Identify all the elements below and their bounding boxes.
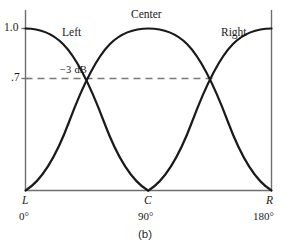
right-channel-curve [149,29,272,191]
left-channel-curve [26,29,149,191]
minus-3db-label: −3 dB [60,65,87,76]
curve-label-right: Right [221,27,247,39]
figure-caption: (b) [138,229,152,241]
x-tick-label-C: C [144,195,152,207]
x-tick-degrees-180: 180° [253,211,274,222]
y-tick-label-1.0: 1.0 [4,22,19,34]
curve-label-left: Left [62,27,81,39]
center-channel-curve [26,29,272,191]
x-tick-degrees-0: 0° [19,211,29,222]
x-tick-label-L: L [22,195,28,207]
x-tick-label-R: R [266,195,273,207]
curve-label-center: Center [131,9,162,21]
x-tick-degrees-90: 90° [138,211,153,222]
figure-panel: 1.0 .7 −3 dB Left Center Right L C R 0° … [0,0,292,247]
y-tick-label-0.7: .7 [11,72,20,84]
